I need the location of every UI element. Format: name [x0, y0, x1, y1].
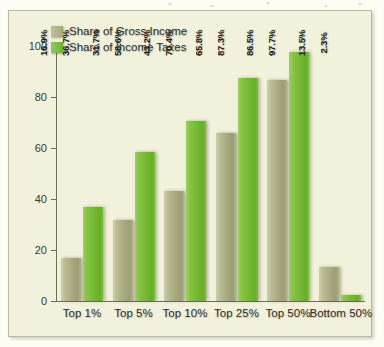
bar-group: 86.5%97.7%	[267, 46, 309, 301]
bar-gross-income[interactable]: 86.5%	[267, 46, 287, 301]
chart-frame: 100 80 60 40 20 0 Share of Gross Income …	[8, 10, 372, 337]
bar-income-taxes[interactable]: 2.3%	[341, 46, 361, 301]
bar-rect	[216, 133, 236, 301]
bar-group: 65.8%87.3%	[216, 46, 258, 301]
bar-income-taxes[interactable]: 58.6%	[135, 46, 155, 301]
bar-rect	[319, 267, 339, 301]
y-tick-label-20: 20	[13, 245, 47, 256]
bar-rect	[238, 78, 258, 301]
bar-income-taxes[interactable]: 87.3%	[238, 46, 258, 301]
bar-group: 16.9%36.7%	[61, 46, 103, 301]
bar-rect	[289, 52, 309, 301]
y-tick-label-0: 0	[13, 296, 47, 307]
bar-rect	[164, 191, 184, 301]
scanned-page: 100 80 60 40 20 0 Share of Gross Income …	[0, 0, 384, 347]
bar-gross-income[interactable]: 43.2%	[164, 46, 184, 301]
chart-plot-area: 100 80 60 40 20 0 Share of Gross Income …	[9, 11, 373, 338]
bar-gross-income[interactable]: 16.9%	[61, 46, 81, 301]
y-tick-label-80: 80	[13, 92, 47, 103]
bar-gross-income[interactable]: 31.7%	[113, 46, 133, 301]
bar-value-label: 2.3%	[340, 33, 351, 54]
bar-income-taxes[interactable]: 97.7%	[289, 46, 309, 301]
bar-group: 31.7%58.6%	[113, 46, 155, 301]
bar-rect	[113, 220, 133, 301]
bar-group: 13.5%2.3%	[319, 46, 361, 301]
bar-rect	[341, 295, 361, 301]
bar-rect	[83, 207, 103, 301]
bar-rect	[186, 121, 206, 301]
bar-income-taxes[interactable]: 36.7%	[83, 46, 103, 301]
bar-gross-income[interactable]: 13.5%	[319, 46, 339, 301]
bar-income-taxes[interactable]: 70.4%	[186, 46, 206, 301]
bar-groups: 16.9%36.7%31.7%58.6%43.2%70.4%65.8%87.3%…	[56, 11, 365, 338]
y-tick-label-60: 60	[13, 143, 47, 154]
bar-gross-income[interactable]: 65.8%	[216, 46, 236, 301]
bar-rect	[135, 152, 155, 301]
bar-rect	[267, 80, 287, 301]
bar-rect	[61, 258, 81, 301]
bar-group: 43.2%70.4%	[164, 46, 206, 301]
x-axis-category-label: Bottom 50%	[310, 307, 370, 319]
y-tick-label-40: 40	[13, 194, 47, 205]
